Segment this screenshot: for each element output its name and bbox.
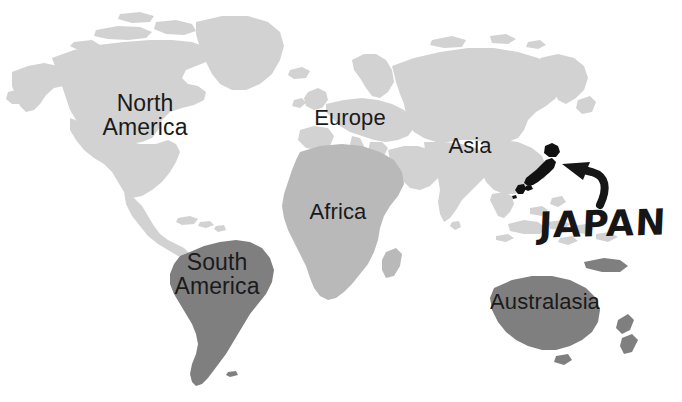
world-map-graphic	[0, 0, 682, 402]
world-map-figure: North America Europe Asia Africa South A…	[0, 0, 682, 402]
